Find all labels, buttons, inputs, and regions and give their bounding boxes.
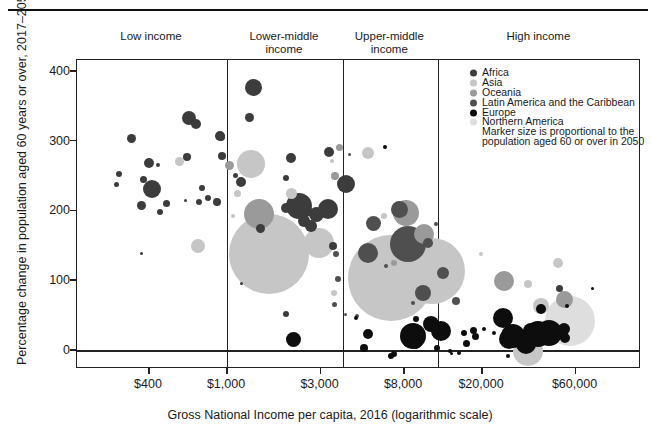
- data-bubble-asia: [331, 290, 337, 296]
- data-bubble-europe: [286, 332, 301, 347]
- y-tick-label: 0: [63, 343, 70, 357]
- data-bubble-asia: [234, 190, 241, 197]
- data-bubble-oceania: [556, 291, 573, 308]
- data-bubble-latin-america-and-the-caribbean: [411, 301, 415, 305]
- data-bubble-latin-america-and-the-caribbean: [348, 153, 351, 156]
- data-bubble-asia: [381, 213, 387, 219]
- data-bubble-africa: [324, 147, 334, 157]
- data-bubble-europe: [492, 331, 496, 335]
- legend-item-label: Northern America: [482, 115, 564, 127]
- data-bubble-africa: [218, 152, 226, 160]
- figure: Percentage change in population aged 60 …: [0, 0, 652, 437]
- data-bubble-africa: [199, 185, 205, 191]
- data-bubble-latin-america-and-the-caribbean: [333, 251, 339, 257]
- data-bubble-latin-america-and-the-caribbean: [423, 238, 433, 248]
- data-bubble-latin-america-and-the-caribbean: [415, 285, 431, 301]
- data-bubble-europe: [354, 316, 358, 320]
- data-bubble-africa: [163, 200, 170, 207]
- income-group-label-3: Upper-middle income: [355, 30, 424, 56]
- y-tick: [70, 210, 76, 212]
- legend-marker-icon: [470, 109, 477, 116]
- legend-item-northern-america: Northern America: [466, 117, 644, 127]
- x-tick-label: $400: [134, 377, 162, 391]
- data-bubble-latin-america-and-the-caribbean: [452, 297, 460, 305]
- data-bubble-asia: [479, 252, 483, 256]
- data-bubble-africa: [291, 208, 301, 218]
- y-tick: [70, 349, 76, 351]
- legend-marker-icon: [470, 89, 477, 96]
- data-bubble-africa: [157, 209, 163, 215]
- data-bubble-europe: [360, 344, 368, 352]
- data-bubble-europe: [450, 352, 453, 355]
- data-bubble-europe: [523, 323, 539, 339]
- data-bubble-africa: [213, 198, 221, 206]
- x-axis-title: Gross National Income per capita, 2016 (…: [167, 408, 492, 422]
- y-tick: [70, 279, 76, 281]
- data-bubble-asia: [237, 150, 265, 178]
- income-group-label-1: Low income: [120, 30, 181, 43]
- data-bubble-europe: [560, 333, 570, 343]
- data-bubble-asia: [553, 258, 563, 268]
- data-bubble-asia: [362, 147, 374, 159]
- data-bubble-europe: [383, 145, 387, 149]
- legend-marker-icon: [470, 99, 477, 106]
- data-bubble-africa: [300, 205, 312, 217]
- data-bubble-africa: [236, 177, 246, 187]
- x-tick-label: $20,000: [458, 377, 503, 391]
- top-rule: [8, 9, 648, 11]
- data-bubble-europe: [363, 329, 373, 339]
- y-tick-label: 400: [49, 64, 70, 78]
- x-tick: [403, 368, 405, 374]
- y-tick-label: 100: [49, 273, 70, 287]
- y-tick-label: 200: [49, 203, 70, 217]
- zero-line: [77, 350, 639, 352]
- data-bubble-africa: [281, 203, 291, 213]
- income-group-label-2: Lower-middle income: [249, 30, 318, 56]
- data-bubble-africa: [329, 242, 337, 250]
- data-bubble-asia: [175, 157, 184, 166]
- data-bubble-africa: [286, 153, 296, 163]
- data-bubble-europe: [391, 351, 397, 357]
- data-bubble-africa: [114, 182, 119, 187]
- x-tick: [481, 368, 483, 374]
- data-bubble-latin-america-and-the-caribbean: [332, 302, 337, 307]
- x-tick: [148, 368, 150, 374]
- data-bubble-asia: [330, 159, 334, 163]
- x-tick: [575, 368, 577, 374]
- y-axis-title: Percentage change in population aged 60 …: [15, 65, 29, 365]
- x-tick-label: $8,000: [384, 377, 422, 391]
- data-bubble-europe: [482, 327, 486, 331]
- data-bubble-europe: [472, 333, 479, 340]
- data-bubble-africa: [196, 199, 202, 205]
- data-bubble-latin-america-and-the-caribbean: [366, 216, 381, 231]
- income-group-label-4: High income: [506, 30, 570, 43]
- data-bubble-europe: [411, 339, 421, 349]
- data-bubble-asia: [191, 239, 205, 253]
- legend: AfricaAsiaOceaniaLatin America and the C…: [466, 68, 644, 147]
- data-bubble-europe: [463, 340, 470, 347]
- data-bubble-oceania: [336, 144, 343, 151]
- data-bubble-latin-america-and-the-caribbean: [434, 222, 438, 226]
- data-bubble-oceania: [225, 161, 234, 170]
- income-boundary-line-1: [227, 60, 228, 367]
- data-bubble-africa: [144, 158, 154, 168]
- data-bubble-africa: [240, 282, 243, 285]
- data-bubble-europe: [442, 326, 446, 330]
- y-tick: [70, 140, 76, 142]
- data-bubble-africa: [283, 175, 289, 181]
- data-bubble-europe: [506, 354, 510, 358]
- x-tick-label: $1,000: [207, 377, 245, 391]
- data-bubble-europe: [457, 351, 461, 355]
- data-bubble-asia: [524, 280, 532, 288]
- data-bubble-europe: [461, 330, 467, 336]
- x-tick-label: $60,000: [552, 377, 597, 391]
- data-bubble-africa: [217, 133, 225, 141]
- legend-marker-icon: [470, 119, 477, 126]
- data-bubble-africa: [184, 199, 187, 202]
- y-tick: [70, 70, 76, 72]
- data-bubble-africa: [191, 119, 201, 129]
- data-bubble-africa: [137, 201, 146, 210]
- data-bubble-africa: [156, 163, 160, 167]
- data-bubble-europe: [413, 316, 419, 322]
- legend-marker-icon: [470, 69, 477, 76]
